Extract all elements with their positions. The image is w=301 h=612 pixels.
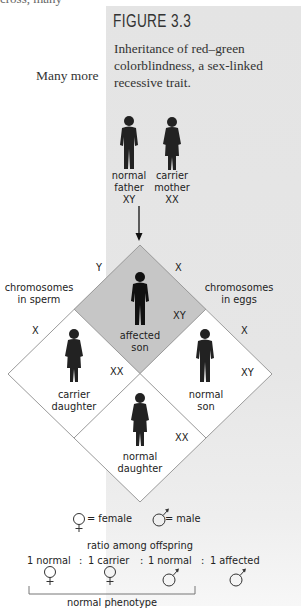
legend-female: = female	[87, 513, 132, 525]
female-symbol-icon	[74, 514, 85, 533]
normal-phenotype-bracket	[29, 586, 195, 594]
affected-son-figure-icon	[128, 271, 152, 327]
normal-daughter-figure-icon	[128, 392, 152, 448]
sperm-x-allele: X	[32, 325, 39, 337]
mother-label: carrier mother XX	[150, 170, 194, 206]
mother-figure-icon	[160, 116, 184, 172]
ratio-separator: :	[140, 555, 143, 567]
ratio-item: 1 carrier	[88, 555, 129, 567]
female-symbol-icon	[105, 567, 116, 586]
male-symbol-icon	[230, 570, 245, 586]
mother-genotype: XX	[150, 194, 194, 206]
egg-axis-label: chromosomes in eggs	[200, 282, 278, 306]
arrow-down-icon	[136, 206, 143, 241]
carrier-daughter-genotype: XX	[110, 366, 123, 378]
normal-son-label: normal son	[176, 389, 236, 413]
sperm-axis-label: chromosomes in sperm	[0, 282, 78, 306]
normal-daughter-label: normal daughter	[110, 451, 170, 475]
ratio-separator: :	[201, 555, 204, 567]
legend-male: = male	[165, 513, 201, 525]
ratio-item: 1 affected	[210, 555, 260, 567]
egg-bottom-allele: X	[241, 325, 248, 337]
carrier-daughter-label: carrier daughter	[44, 389, 104, 413]
father-figure-icon	[117, 115, 141, 171]
normal-son-figure-icon	[193, 328, 217, 384]
egg-top-allele: X	[175, 262, 182, 274]
father-label: normal father XY	[107, 170, 151, 206]
normal-daughter-genotype: XX	[175, 432, 188, 444]
female-symbol-icon	[45, 567, 56, 586]
ratio-title: ratio among offspring	[60, 540, 220, 552]
ratio-item: 1 normal	[148, 555, 192, 567]
affected-son-label: affected son	[110, 330, 170, 354]
affected-son-genotype: XY	[173, 310, 186, 322]
bracket-label: normal phenotype	[50, 597, 174, 609]
ratio-item: 1 normal	[27, 555, 71, 567]
sperm-y-allele: Y	[96, 262, 102, 274]
ratio-separator: :	[79, 555, 82, 567]
normal-son-genotype: XY	[241, 367, 254, 379]
father-genotype: XY	[107, 194, 151, 206]
carrier-daughter-figure-icon	[62, 328, 86, 384]
male-symbol-icon	[163, 570, 178, 586]
